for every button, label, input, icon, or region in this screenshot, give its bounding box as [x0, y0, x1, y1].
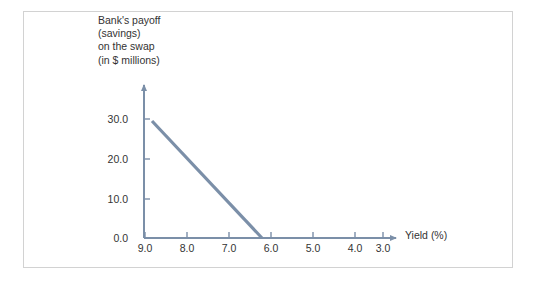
- x-tick-label-9: 9.0: [128, 242, 162, 254]
- x-axis-title: Yield (%): [405, 229, 447, 241]
- y-tick-label-30: 30.0: [88, 113, 128, 125]
- y-tick-label-0: 0.0: [88, 232, 128, 244]
- x-tick-label-5: 5.0: [296, 242, 330, 254]
- y-tick-label-20: 20.0: [88, 153, 128, 165]
- payoff-series-line: [152, 121, 262, 238]
- chart-figure: Bank's payoff(savings)on the swap(in $ m…: [0, 0, 535, 282]
- x-tick-label-6: 6.0: [254, 242, 288, 254]
- x-tick-label-7: 7.0: [212, 242, 246, 254]
- y-tick-label-10: 10.0: [88, 193, 128, 205]
- x-tick-label-3: 3.0: [366, 242, 400, 254]
- plot-area: [0, 0, 535, 282]
- x-tick-label-8: 8.0: [170, 242, 204, 254]
